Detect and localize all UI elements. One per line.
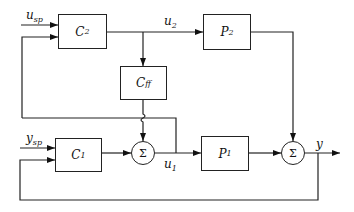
block-c1-label: C bbox=[71, 148, 80, 162]
u2-main: u bbox=[164, 14, 172, 28]
usp-sub: sp bbox=[34, 15, 43, 24]
block-p1-label: P bbox=[218, 147, 226, 161]
signal-label-y: y bbox=[316, 138, 323, 150]
usp-main: u bbox=[26, 8, 34, 22]
diagram-wires bbox=[0, 0, 354, 212]
summing-junction-2: Σ bbox=[281, 141, 305, 165]
block-p2: P2 bbox=[203, 14, 251, 50]
signal-label-u2: u2 bbox=[164, 15, 177, 30]
signal-label-ysp: ysp bbox=[26, 132, 42, 147]
block-p1: P1 bbox=[201, 136, 249, 171]
block-p1-sub: 1 bbox=[226, 149, 231, 158]
block-diagram: C2 P2 Cff C1 P1 Σ Σ usp u2 ysp u1 y bbox=[0, 0, 354, 212]
p2-to-sum2-arrow bbox=[251, 32, 293, 141]
block-c1: C1 bbox=[55, 138, 102, 172]
signal-label-u1: u1 bbox=[164, 158, 177, 173]
ysp-main: y bbox=[26, 131, 33, 145]
signal-label-usp: usp bbox=[26, 9, 43, 24]
block-c2: C2 bbox=[58, 14, 107, 49]
block-c1-sub: 1 bbox=[81, 151, 86, 160]
sigma-icon: Σ bbox=[139, 147, 147, 160]
cff-to-sum1-arrow bbox=[141, 100, 145, 141]
block-c2-sub: 2 bbox=[85, 27, 90, 36]
block-cff-sub: ff bbox=[145, 79, 151, 88]
u2-sub: 2 bbox=[172, 21, 177, 30]
block-cff: Cff bbox=[120, 66, 167, 100]
u1-main: u bbox=[164, 157, 172, 171]
y-main: y bbox=[316, 137, 323, 151]
block-c2-label: C bbox=[75, 25, 84, 39]
block-cff-label: C bbox=[136, 76, 145, 90]
summing-junction-1: Σ bbox=[131, 141, 155, 165]
sigma-icon: Σ bbox=[289, 147, 297, 160]
ysp-sub: sp bbox=[33, 138, 42, 147]
u1-feedback-to-c2 bbox=[22, 37, 58, 118]
block-p2-sub: 2 bbox=[228, 28, 233, 37]
u1-sub: 1 bbox=[172, 164, 177, 173]
